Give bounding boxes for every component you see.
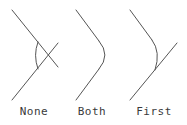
panel-first-drawing	[130, 10, 177, 100]
panel-both-drawing	[76, 10, 105, 100]
first-line	[130, 10, 152, 40]
label-first: First	[134, 105, 174, 119]
second-line	[12, 43, 58, 100]
fillet-arc	[152, 40, 157, 70]
label-none: None	[14, 105, 54, 119]
second-line	[130, 43, 177, 100]
label-both: Both	[72, 105, 112, 119]
first-line	[76, 10, 99, 41]
fillet-arc	[36, 42, 39, 69]
panel-none-drawing	[12, 10, 58, 100]
second-line	[76, 69, 99, 100]
fillet-arc	[99, 41, 105, 69]
first-line	[12, 10, 58, 67]
